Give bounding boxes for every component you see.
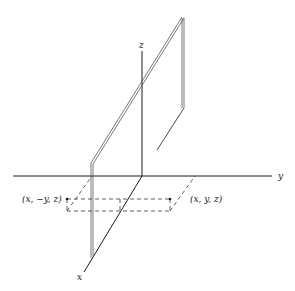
xz-plane: [91, 17, 184, 258]
z-axis-label: z: [138, 40, 144, 50]
x-axis-label: x: [77, 272, 82, 282]
point-right-dot: [169, 198, 172, 201]
point-right-label: (x, y, z): [190, 194, 223, 204]
point-left-dot: [66, 198, 69, 201]
y-axis-label: y: [277, 171, 284, 181]
reflection-diagram: y z x (x, −y, z) (x, y, z): [0, 0, 295, 291]
point-left-label: (x, −y, z): [22, 194, 62, 204]
